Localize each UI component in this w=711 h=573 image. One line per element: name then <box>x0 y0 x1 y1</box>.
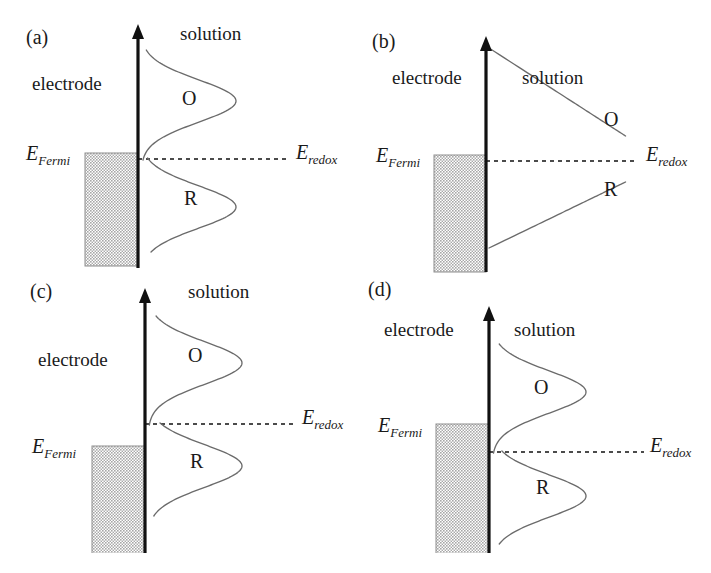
fermi-level-label-subscript: Fermi <box>37 153 70 168</box>
electrode-region-label: electrode <box>38 349 108 370</box>
reduced-species-label: R <box>184 187 198 209</box>
reduced-species-label: R <box>536 476 550 498</box>
redox-level-label-subscript: redox <box>308 152 337 167</box>
panel-letter-c: (c) <box>30 280 52 303</box>
electrode-filled-band <box>436 424 489 553</box>
redox-level-label-subscript: redox <box>662 445 691 460</box>
redox-level-label-symbol: E <box>645 143 658 165</box>
solution-region-label: solution <box>180 23 242 44</box>
solution-region-label: solution <box>514 319 576 340</box>
fermi-level-label-subscript: Fermi <box>389 425 422 440</box>
energy-axis-arrowhead <box>480 36 492 51</box>
oxidized-distribution-curve <box>149 316 242 425</box>
oxidized-species-label: O <box>604 108 618 130</box>
fermi-level-label-subscript: Fermi <box>43 446 76 461</box>
oxidized-species-label: O <box>182 87 196 109</box>
solution-region-label: solution <box>522 67 584 88</box>
fermi-level-label-subscript: Fermi <box>387 155 420 170</box>
redox-level-label: Eredox <box>301 406 344 432</box>
panel-letter-b: (b) <box>372 30 395 53</box>
redox-level-label-subscript: redox <box>658 154 687 169</box>
redox-level-label: Eredox <box>295 141 338 167</box>
panel-b-canvas: (b)electrodesolutionOREFermiEredox <box>356 0 711 287</box>
figure-root: (a)electrodesolutionOREFermiEredox(b)ele… <box>0 0 711 573</box>
electrode-filled-band <box>434 155 486 272</box>
panel-letter-d: (d) <box>368 278 391 301</box>
electrode-filled-band <box>85 153 138 266</box>
electrode-filled-band <box>92 446 145 553</box>
panel-a: (a)electrodesolutionOREFermiEredox <box>0 0 355 287</box>
redox-level-label-symbol: E <box>301 406 314 428</box>
energy-axis-arrowhead <box>139 288 151 303</box>
fermi-level-label-symbol: E <box>31 435 44 457</box>
panel-d: (d)electrodesolutionOREFermiEredox <box>356 266 711 553</box>
fermi-level-label-symbol: E <box>377 414 390 436</box>
electrode-region-label: electrode <box>392 67 462 88</box>
redox-level-label-symbol: E <box>649 434 662 456</box>
fermi-level-label: EFermi <box>375 144 420 170</box>
fermi-level-label: EFermi <box>31 435 76 461</box>
panel-b: (b)electrodesolutionOREFermiEredox <box>356 0 711 287</box>
panel-letter-a: (a) <box>26 26 48 49</box>
fermi-level-label: EFermi <box>25 142 70 168</box>
reduced-species-label: R <box>604 178 618 200</box>
energy-axis-arrowhead <box>132 24 144 39</box>
oxidized-species-label: O <box>188 344 202 366</box>
redox-level-label-symbol: E <box>295 141 308 163</box>
solution-region-label: solution <box>188 281 250 302</box>
oxidized-distribution-curve <box>494 344 586 453</box>
electrode-region-label: electrode <box>32 73 102 94</box>
redox-level-label: Eredox <box>645 143 688 169</box>
panel-c: (c)electrodesolutionOREFermiEredox <box>0 266 355 553</box>
redox-level-label: Eredox <box>649 434 692 460</box>
energy-axis-arrowhead <box>483 306 495 321</box>
oxidized-species-label: O <box>534 376 548 398</box>
reduced-species-label: R <box>190 450 204 472</box>
electrode-region-label: electrode <box>384 319 454 340</box>
fermi-level-label-symbol: E <box>375 144 388 166</box>
fermi-level-label: EFermi <box>377 414 422 440</box>
fermi-level-label-symbol: E <box>25 142 38 164</box>
panel-d-canvas: (d)electrodesolutionOREFermiEredox <box>356 266 711 553</box>
redox-level-label-subscript: redox <box>314 417 343 432</box>
panel-c-canvas: (c)electrodesolutionOREFermiEredox <box>0 266 355 553</box>
panel-a-canvas: (a)electrodesolutionOREFermiEredox <box>0 0 355 287</box>
